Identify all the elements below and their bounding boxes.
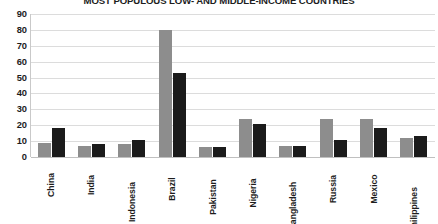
x-tick-label: Philippines: [394, 158, 434, 222]
bar: [320, 119, 333, 157]
bar: [374, 128, 387, 157]
bar-group: [394, 14, 434, 157]
y-tick-label-70: 70: [3, 41, 27, 51]
bar: [253, 124, 266, 157]
y-tick-label-10: 10: [3, 136, 27, 146]
bar-group: [353, 14, 393, 157]
x-tick-label: Mexico: [353, 158, 393, 222]
y-tick-label-60: 60: [3, 57, 27, 67]
x-tick-label-text: Philippines: [409, 187, 419, 224]
bar: [239, 119, 252, 157]
x-tick-label-text: Russia: [328, 175, 338, 203]
bar: [400, 138, 413, 157]
x-tick-label-text: Brazil: [167, 177, 177, 200]
x-tick-label: India: [71, 158, 111, 222]
bar: [293, 146, 306, 157]
x-tick-label: Brazil: [152, 158, 192, 222]
y-axis-tick-labels: 9080706050403020100: [0, 0, 27, 224]
bar: [279, 146, 292, 157]
x-tick-label: Nigeria: [233, 158, 273, 222]
y-tick-label-80: 80: [3, 25, 27, 35]
bar: [132, 140, 145, 157]
bar: [159, 30, 172, 157]
y-tick-label-20: 20: [3, 120, 27, 130]
x-tick-label: China: [31, 158, 71, 222]
x-tick-label: Bangladesh: [273, 158, 313, 222]
bar: [414, 136, 427, 157]
chart-title: MOST POPULOUS LOW- AND MIDDLE-INCOME COU…: [0, 0, 438, 7]
y-tick-label-90: 90: [3, 9, 27, 19]
bar: [92, 144, 105, 157]
y-tick-label-50: 50: [3, 73, 27, 83]
bar: [213, 147, 226, 157]
x-tick-label-text: Nigeria: [248, 179, 258, 208]
y-tick-label-40: 40: [3, 88, 27, 98]
x-tick-label-text: India: [86, 174, 96, 194]
bar: [52, 128, 65, 157]
x-tick-label-text: Pakistan: [207, 180, 217, 215]
bar-group: [152, 14, 192, 157]
y-tick-label-30: 30: [3, 104, 27, 114]
bar: [334, 140, 347, 157]
x-tick-label: Indonesia: [112, 158, 152, 222]
bar: [199, 147, 212, 157]
bar-group: [233, 14, 273, 157]
bar-group: [273, 14, 313, 157]
x-tick-label-text: Indonesia: [127, 182, 137, 222]
bar: [78, 146, 91, 157]
bar: [38, 143, 51, 157]
y-tick-label-0: 0: [3, 152, 27, 162]
x-tick-label-text: Bangladesh: [288, 182, 298, 224]
x-tick-label-text: Mexico: [369, 174, 379, 203]
x-axis-category-labels: ChinaIndiaIndonesiaBrazilPakistanNigeria…: [31, 158, 434, 224]
bar-chart: MOST POPULOUS LOW- AND MIDDLE-INCOME COU…: [0, 0, 438, 224]
bar-group: [192, 14, 232, 157]
bar: [360, 119, 373, 157]
x-tick-label-text: China: [46, 173, 56, 197]
x-tick-label: Pakistan: [192, 158, 232, 222]
bar-group: [31, 14, 71, 157]
bar: [118, 144, 131, 157]
bars-layer: [31, 14, 434, 157]
x-tick-label: Russia: [313, 158, 353, 222]
bar-group: [313, 14, 353, 157]
bar: [173, 73, 186, 157]
bar-group: [112, 14, 152, 157]
bar-group: [71, 14, 111, 157]
